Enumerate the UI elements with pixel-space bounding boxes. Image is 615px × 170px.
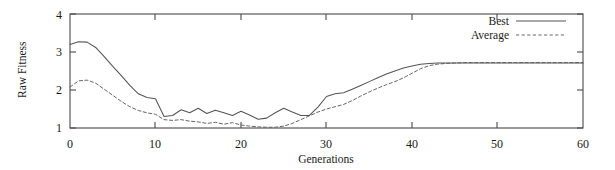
x-tick-label-0: 0 (67, 137, 73, 151)
chart-figure: Raw Fitness 1 2 3 4 0 10 20 30 40 50 60 … (0, 0, 615, 170)
chart-legend: Best Average (471, 15, 566, 42)
y-tick-label-2: 2 (56, 83, 62, 97)
y-axis-label: Raw Fitness (16, 41, 28, 98)
y-tick-label-3: 3 (56, 45, 62, 59)
chart-svg: Raw Fitness 1 2 3 4 0 10 20 30 40 50 60 … (0, 0, 615, 170)
x-tick-label-10: 10 (149, 137, 161, 151)
legend-label-best: Best (489, 15, 510, 27)
x-tick-label-50: 50 (491, 137, 503, 151)
series-line-best (70, 42, 583, 120)
y-tick-label-1: 1 (56, 121, 62, 135)
y-tick-label-4: 4 (56, 8, 62, 22)
x-tick-label-60: 60 (577, 137, 589, 151)
x-tick-label-20: 20 (235, 137, 247, 151)
legend-label-average: Average (471, 29, 509, 42)
x-axis-label: Generations (298, 153, 354, 165)
x-tick-label-30: 30 (320, 137, 332, 151)
x-tick-label-40: 40 (406, 137, 418, 151)
series-line-average (70, 63, 583, 128)
